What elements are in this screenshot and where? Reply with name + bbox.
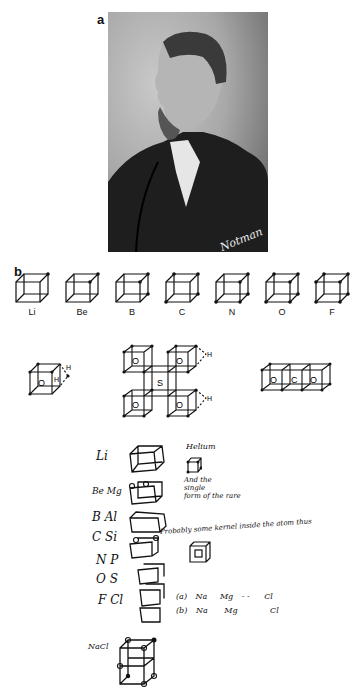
hand-row-li: Li [96,449,108,463]
hand-row-b-al: B Al [92,510,117,524]
cube-diagram-icon [212,272,252,304]
hand-row-o-s: O S [96,572,118,586]
cube-o: O [260,272,304,317]
cube-label: Li [10,307,54,317]
svg-text:O: O [310,375,317,385]
cube-diagram-icon [262,272,302,304]
svg-text:H: H [54,376,59,383]
svg-text:O: O [132,400,139,410]
helium-note: Helium [186,442,216,451]
cube-label: N [210,307,254,317]
equation-a-term: Na [196,592,208,601]
cube-f: F [310,272,354,317]
co2-structure: O C O [258,360,342,400]
equation-b-term: Na [196,606,208,615]
atom-note-line: And the [184,476,241,484]
hand-row-c-si: C Si [92,530,117,544]
sulfate-structure: O O S O O H H [118,342,218,430]
equation-a-prefix: (a) [176,592,187,601]
kernel-cube-sketch [188,540,212,564]
hand-row-be-mg: Be Mg [92,486,122,496]
cube-n: N [210,272,254,317]
cube-label: Be [60,307,104,317]
cube-diagram-icon [112,272,152,304]
equation-b-term: Mg [224,606,237,615]
cube-diagram-icon [62,272,102,304]
hand-row-n-p: N P [96,553,118,567]
cube-be: Be [60,272,104,317]
portrait-photo: Notman [108,12,268,252]
cube-diagram-icon [162,272,202,304]
equation-a-term: Mg [220,592,233,601]
svg-text:O: O [38,378,45,388]
cube-c: C [160,272,204,317]
water-cube-diagram: O H H [26,362,76,398]
svg-text:O: O [176,356,183,366]
hand-row-f-cl: F Cl [98,593,123,607]
svg-text:O: O [132,356,139,366]
cube-label: F [310,307,354,317]
atom-note-line: form of the rare [184,492,241,500]
equation-a-term: - - [242,592,250,601]
cube-label: B [110,307,154,317]
helium-cube-sketch [186,456,202,474]
svg-text:O: O [176,400,183,410]
equation-b-prefix: (b) [176,606,187,615]
water-structure: O H H [26,362,76,402]
svg-text:H: H [207,395,212,402]
svg-text:C: C [291,375,298,385]
sulfate-cube-diagram: O O S O O H H [118,342,218,426]
nacl-label: NaCl [88,642,108,651]
svg-text:S: S [157,378,163,388]
cube-label: O [260,307,304,317]
cube-li: Li [10,272,54,317]
svg-text:O: O [270,375,277,385]
svg-text:H: H [66,364,71,371]
cube-b: B [110,272,154,317]
svg-text:H: H [207,351,212,358]
equation-a-term: Cl [264,592,273,601]
equation-a: (a) Na Mg - - Cl [176,592,273,601]
cube-label: C [160,307,204,317]
portrait-figure [108,12,268,252]
nacl-lattice-sketch [114,632,164,692]
equation-b: (b) Na Mg Cl [176,606,279,615]
panel-label-a: a [97,13,104,26]
equation-b-term: Cl [270,606,279,615]
cube-diagram-icon [12,272,52,304]
atom-note-line: single [184,484,241,492]
co2-cube-diagram: O C O [258,360,342,396]
atom-note: And the single form of the rare [184,476,241,500]
cube-series-row: Li Be B C N O [0,272,360,322]
cube-diagram-icon [312,272,352,304]
